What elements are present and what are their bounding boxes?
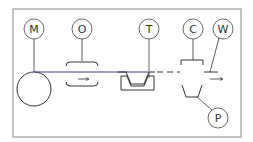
pan-icon xyxy=(182,85,202,97)
coater-icon xyxy=(181,60,203,65)
component-w: W xyxy=(210,19,233,72)
label-w: W xyxy=(218,23,229,36)
leader-p xyxy=(197,97,212,110)
component-t: T xyxy=(118,19,159,90)
trough-icon xyxy=(121,76,154,90)
component-c: C xyxy=(181,19,203,65)
frame xyxy=(13,9,241,137)
label-p: P xyxy=(215,112,222,125)
component-p: P xyxy=(182,85,228,128)
roll-icon xyxy=(17,72,51,106)
oven-top xyxy=(66,62,98,66)
oven-bottom xyxy=(66,82,98,86)
component-m: M xyxy=(17,19,51,106)
label-m: M xyxy=(29,23,39,36)
component-o: O xyxy=(66,19,98,86)
diagram-canvas: M O T C W xyxy=(0,0,253,142)
label-t: T xyxy=(145,23,153,36)
web-through-trough xyxy=(118,72,155,84)
leader-w xyxy=(210,38,219,72)
label-o: O xyxy=(78,23,87,36)
label-c: C xyxy=(189,23,197,36)
